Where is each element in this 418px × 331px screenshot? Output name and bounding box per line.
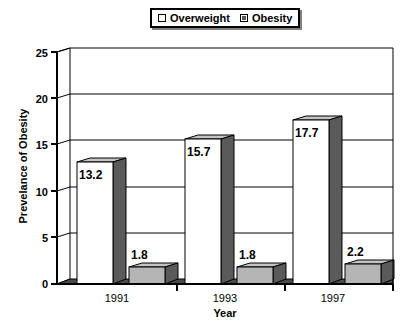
data-label-1993-overweight: 15.7 [187, 145, 210, 159]
data-label-1993-obesity: 1.8 [239, 248, 256, 262]
data-label-1997-obesity: 2.2 [347, 245, 364, 259]
x-axis-ticks [177, 284, 393, 291]
x-tick-label-1993: 1993 [195, 293, 255, 304]
data-label-1997-overweight: 17.7 [295, 126, 318, 140]
x-tick-label-1997: 1997 [303, 293, 363, 304]
x-axis-title: Year [57, 307, 393, 319]
bar-1997-overweight [293, 116, 342, 284]
bar-1993-obesity [237, 263, 286, 284]
bar-1991-obesity [129, 263, 178, 284]
x-tick-label-1991: 1991 [87, 293, 147, 304]
data-label-1991-obesity: 1.8 [131, 248, 148, 262]
bar-chart: Overweight Obesity Prevelance of Obesity… [0, 0, 418, 331]
plot-left-wall [57, 48, 70, 284]
plot-area [0, 0, 418, 331]
data-label-1991-overweight: 13.2 [79, 168, 102, 182]
bar-1997-obesity [345, 260, 394, 284]
